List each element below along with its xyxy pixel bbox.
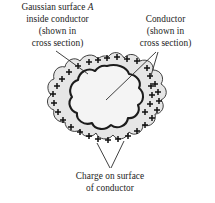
label-gaussian-line4: cross section) bbox=[0, 38, 115, 50]
label-gaussian-line3: (shown in bbox=[0, 26, 115, 38]
leader-line-charge-left bbox=[97, 143, 110, 168]
label-conductor-line1: Conductor bbox=[116, 14, 215, 26]
label-charge-on-surface: Charge on surface of conductor bbox=[52, 171, 168, 195]
leader-line-charge-right bbox=[111, 141, 124, 168]
label-gaussian-surface: Gaussian surface A inside conductor (sho… bbox=[0, 2, 115, 50]
label-gaussian-line1: Gaussian surface A bbox=[0, 2, 115, 14]
label-conductor-line2: (shown in bbox=[116, 26, 215, 38]
label-gaussian-symbol: A bbox=[88, 2, 94, 12]
label-charge-line2: of conductor bbox=[52, 183, 168, 195]
label-gaussian-line1-text: Gaussian surface bbox=[21, 2, 87, 12]
label-conductor: Conductor (shown in cross section) bbox=[116, 14, 215, 50]
label-gaussian-line2: inside conductor bbox=[0, 14, 115, 26]
label-charge-line1: Charge on surface bbox=[52, 171, 168, 183]
label-conductor-line3: cross section) bbox=[116, 38, 215, 50]
